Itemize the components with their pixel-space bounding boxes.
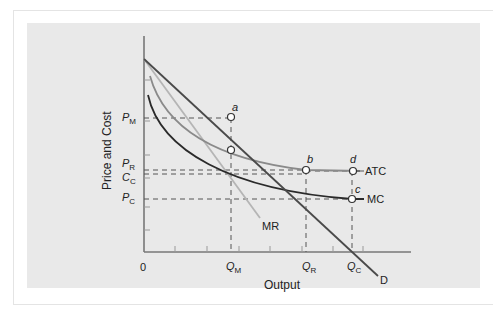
chart-svg: a b d c ATC MC MR D PM PR CC PC 0 QM QR … bbox=[0, 0, 493, 315]
point-b-label: b bbox=[307, 153, 313, 165]
svg-text:QC: QC bbox=[347, 260, 362, 275]
mc-mr-intersection-marker bbox=[228, 147, 235, 154]
point-c-label: c bbox=[355, 183, 361, 195]
atc-curve bbox=[150, 76, 360, 171]
guide-lines bbox=[144, 118, 352, 252]
origin-label: 0 bbox=[140, 261, 146, 273]
demand-curve bbox=[144, 59, 378, 276]
svg-text:CC: CC bbox=[122, 171, 136, 186]
svg-text:PM: PM bbox=[122, 111, 136, 126]
mc-curve bbox=[148, 95, 364, 199]
y-axis-title: Price and Cost bbox=[100, 111, 114, 190]
mr-curve bbox=[144, 59, 260, 218]
x-axis-title: Output bbox=[264, 278, 301, 292]
svg-text:PC: PC bbox=[122, 191, 135, 206]
demand-label: D bbox=[380, 274, 388, 286]
point-d-label: d bbox=[350, 153, 357, 165]
point-a-label: a bbox=[232, 101, 238, 113]
point-d-marker bbox=[350, 168, 357, 175]
point-c-marker bbox=[349, 196, 356, 203]
svg-text:QM: QM bbox=[226, 260, 242, 275]
mc-label: MC bbox=[367, 193, 384, 205]
svg-text:QR: QR bbox=[302, 260, 317, 275]
mr-label: MR bbox=[262, 220, 279, 232]
svg-text:PR: PR bbox=[122, 157, 135, 172]
atc-label: ATC bbox=[365, 165, 386, 177]
y-tick-labels: PM PR CC PC bbox=[122, 111, 136, 206]
x-tick-labels: 0 QM QR QC bbox=[140, 260, 362, 275]
point-a-marker bbox=[228, 114, 235, 121]
point-b-marker bbox=[303, 167, 310, 174]
cc-label: C bbox=[122, 171, 130, 183]
